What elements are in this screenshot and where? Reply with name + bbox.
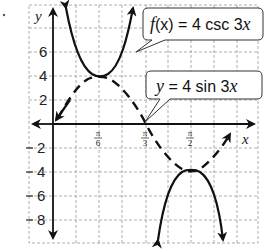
x-axis-label: x <box>241 131 249 147</box>
svg-text:π: π <box>96 128 101 138</box>
callout-sin: y = 4 sin 3x <box>145 71 262 122</box>
svg-text:π: π <box>188 128 193 138</box>
svg-text:6: 6 <box>39 43 47 60</box>
svg-text:6: 6 <box>96 138 101 148</box>
trig-graph: y x 6 4 2 2 4 6 8 π 6 π 3 π 2 f(x) = 4 c… <box>0 0 266 252</box>
svg-text:8: 8 <box>37 211 45 228</box>
svg-text:4: 4 <box>39 67 47 84</box>
y-tick-labels: 6 4 2 2 4 6 8 <box>26 43 47 228</box>
svg-text:4: 4 <box>37 163 45 180</box>
svg-text:f(x) = 4 csc 3x: f(x) = 4 csc 3x <box>150 14 251 34</box>
svg-text:6: 6 <box>37 187 45 204</box>
svg-text:π: π <box>143 128 148 138</box>
y-axis-label: y <box>33 8 42 24</box>
svg-text:2: 2 <box>188 138 193 148</box>
x-tick-labels: π 6 π 3 π 2 <box>94 128 194 148</box>
svg-text:y = 4 sin 3x: y = 4 sin 3x <box>154 76 237 96</box>
svg-text:2: 2 <box>39 91 47 108</box>
svg-text:3: 3 <box>143 138 148 148</box>
callout-csc: f(x) = 4 csc 3x <box>136 8 263 52</box>
svg-text:2: 2 <box>37 139 45 156</box>
axes <box>33 9 254 238</box>
item-bullet <box>3 14 5 16</box>
